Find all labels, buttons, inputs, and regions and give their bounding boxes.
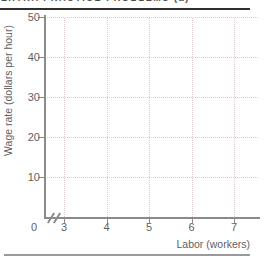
x-tick-label: 7 <box>224 221 244 234</box>
y-gridline <box>47 57 258 58</box>
bottom-divider <box>4 254 250 256</box>
cropped-caption-text: EXTRA PRACTICE PROBLEMS (a) <box>1 0 190 3</box>
x-tick-label: 6 <box>182 221 202 234</box>
x-axis-title: Labor (workers) <box>140 238 250 251</box>
x-gridline <box>149 18 150 217</box>
x-gridline <box>192 18 193 217</box>
y-tick-label: 20 <box>12 131 40 144</box>
x-axis-line <box>44 217 260 219</box>
y-gridline <box>47 97 258 98</box>
y-tick-label: 30 <box>12 91 40 104</box>
y-gridline <box>47 177 258 178</box>
origin-tick-label: 0 <box>28 221 40 234</box>
y-tick-label: 40 <box>12 51 40 64</box>
x-tick-label: 5 <box>139 221 159 234</box>
y-gridline <box>47 137 258 138</box>
x-gridline <box>234 18 235 217</box>
x-tick-label: 3 <box>54 221 74 234</box>
y-tick-label: 10 <box>12 171 40 184</box>
x-gridline <box>107 18 108 217</box>
y-axis-line <box>44 15 46 219</box>
figure-panel: EXTRA PRACTICE PROBLEMS (a) Wage rate (d… <box>0 0 267 262</box>
x-gridline <box>64 18 65 217</box>
cropped-caption: EXTRA PRACTICE PROBLEMS (a) <box>0 0 210 5</box>
y-tick-label: 50 <box>12 11 40 24</box>
y-gridline <box>47 17 258 18</box>
top-divider <box>0 8 250 10</box>
x-tick-label: 4 <box>97 221 117 234</box>
